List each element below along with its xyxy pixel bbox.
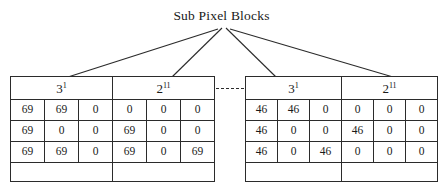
connector-to-block-1 bbox=[68, 29, 218, 77]
cell-right-r0-c3: 0 bbox=[342, 100, 374, 121]
block-header-2: 211 bbox=[113, 77, 215, 100]
block-header-2-exponent: 11 bbox=[163, 80, 171, 89]
cell-right-r0-c4: 0 bbox=[374, 100, 406, 121]
cell-left-r0-c1: 69 bbox=[45, 100, 79, 121]
cell-left-r1-c2: 0 bbox=[79, 121, 113, 142]
cell-left-r2-c2: 0 bbox=[79, 142, 113, 163]
cell-left-r2-c0: 69 bbox=[11, 142, 45, 163]
block-header-3: 31 bbox=[246, 77, 342, 100]
empty-cell-block-3 bbox=[246, 163, 342, 182]
cell-left-r2-c1: 69 bbox=[45, 142, 79, 163]
connector-to-block-3 bbox=[226, 28, 276, 77]
cell-left-r1-c0: 69 bbox=[11, 121, 45, 142]
table-row: 69 0 0 69 0 0 46 0 0 46 0 0 bbox=[11, 121, 438, 142]
cell-left-r2-c3: 69 bbox=[113, 142, 147, 163]
table-header-row: 31 211 31 211 bbox=[11, 77, 438, 100]
block-header-3-exponent: 1 bbox=[295, 80, 299, 89]
cell-right-r1-c4: 0 bbox=[374, 121, 406, 142]
gap-cell-r1 bbox=[215, 121, 246, 142]
block-header-4: 211 bbox=[342, 77, 438, 100]
cell-left-r1-c3: 69 bbox=[113, 121, 147, 142]
cell-right-r2-c4: 0 bbox=[374, 142, 406, 163]
gap-cell-r2 bbox=[215, 142, 246, 163]
cell-right-r0-c0: 46 bbox=[246, 100, 278, 121]
cell-left-r0-c0: 69 bbox=[11, 100, 45, 121]
pixel-blocks-table-wrapper: 31 211 31 211 69 69 0 0 bbox=[10, 76, 433, 176]
block-header-1: 31 bbox=[11, 77, 113, 100]
cell-left-r1-c1: 0 bbox=[45, 121, 79, 142]
cell-left-r0-c5: 0 bbox=[181, 100, 215, 121]
cell-right-r1-c2: 0 bbox=[310, 121, 342, 142]
gap-cell-r0 bbox=[215, 100, 246, 121]
cell-right-r0-c2: 0 bbox=[310, 100, 342, 121]
block-separator-dashed bbox=[215, 77, 246, 100]
cell-right-r2-c0: 46 bbox=[246, 142, 278, 163]
cell-right-r2-c5: 0 bbox=[406, 142, 438, 163]
cell-left-r0-c3: 0 bbox=[113, 100, 147, 121]
cell-right-r0-c1: 46 bbox=[278, 100, 310, 121]
cell-right-r1-c0: 46 bbox=[246, 121, 278, 142]
cell-right-r1-c3: 46 bbox=[342, 121, 374, 142]
empty-cell-block-2 bbox=[113, 163, 215, 182]
cell-left-r0-c2: 0 bbox=[79, 100, 113, 121]
empty-cell-block-4 bbox=[342, 163, 438, 182]
table-row: 69 69 0 69 0 69 46 0 46 0 0 0 bbox=[11, 142, 438, 163]
connector-to-block-4 bbox=[230, 29, 393, 77]
gap-cell-empty bbox=[215, 163, 246, 182]
empty-cell-block-1 bbox=[11, 163, 113, 182]
cell-right-r1-c1: 0 bbox=[278, 121, 310, 142]
sub-pixel-blocks-diagram: Sub Pixel Blocks 31 211 bbox=[0, 0, 443, 190]
cell-left-r1-c5: 0 bbox=[181, 121, 215, 142]
cell-left-r2-c5: 69 bbox=[181, 142, 215, 163]
cell-left-r2-c4: 0 bbox=[147, 142, 181, 163]
cell-left-r1-c4: 0 bbox=[147, 121, 181, 142]
cell-right-r2-c2: 46 bbox=[310, 142, 342, 163]
block-header-4-exponent: 11 bbox=[389, 80, 397, 89]
diagram-title: Sub Pixel Blocks bbox=[0, 8, 443, 24]
cell-right-r1-c5: 0 bbox=[406, 121, 438, 142]
cell-right-r0-c5: 0 bbox=[406, 100, 438, 121]
cell-right-r2-c3: 0 bbox=[342, 142, 374, 163]
table-empty-row bbox=[11, 163, 438, 182]
block-header-1-exponent: 1 bbox=[63, 80, 67, 89]
cell-left-r0-c4: 0 bbox=[147, 100, 181, 121]
pixel-blocks-table: 31 211 31 211 69 69 0 0 bbox=[10, 76, 438, 182]
connector-to-block-2 bbox=[172, 28, 222, 77]
dashed-separator-icon bbox=[216, 88, 244, 89]
table-row: 69 69 0 0 0 0 46 46 0 0 0 0 bbox=[11, 100, 438, 121]
cell-right-r2-c1: 0 bbox=[278, 142, 310, 163]
